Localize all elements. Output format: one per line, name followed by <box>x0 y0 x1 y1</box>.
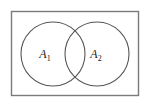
set-label-a2-subscript: 2 <box>98 54 102 63</box>
set-label-a1-subscript: 1 <box>47 54 51 63</box>
venn-diagram-canvas: A1 A2 <box>0 0 149 104</box>
universal-set-rectangle <box>12 12 139 96</box>
venn-diagram-figure: A1 A2 <box>0 0 149 104</box>
